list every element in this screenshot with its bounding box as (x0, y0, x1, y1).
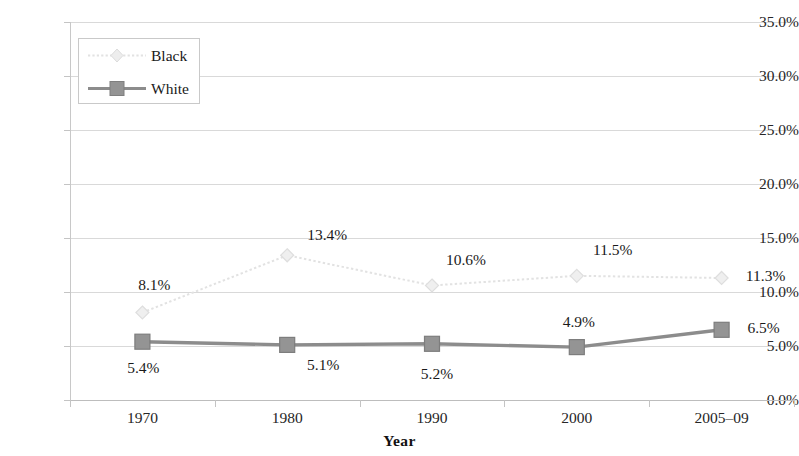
line-chart: 0.0%5.0%10.0%15.0%20.0%25.0%30.0%35.0% 1… (0, 0, 799, 456)
data-point-marker (570, 269, 583, 282)
data-point-marker (425, 336, 440, 351)
data-point-marker (281, 249, 294, 262)
data-point-label: 13.4% (307, 228, 347, 244)
data-point-marker (715, 271, 728, 284)
data-point-marker (280, 337, 295, 352)
data-point-label: 5.2% (421, 366, 453, 382)
data-point-marker (136, 306, 149, 319)
x-axis-title: Year (0, 432, 799, 450)
legend-item-black: Black (79, 39, 199, 72)
data-point-label: 8.1% (138, 277, 170, 293)
data-point-label: 5.1% (307, 357, 339, 373)
legend-label-black: Black (151, 48, 187, 64)
data-point-marker (135, 334, 150, 349)
data-point-label: 4.9% (563, 314, 595, 330)
data-point-label: 5.4% (127, 360, 159, 376)
data-point-label: 11.5% (593, 242, 632, 258)
legend-label-white: White (151, 81, 189, 97)
data-point-label: 10.6% (446, 252, 486, 268)
legend-swatch-black (86, 39, 148, 72)
data-point-marker (569, 340, 584, 355)
chart-legend: Black White (78, 38, 200, 104)
data-point-label: 11.3% (746, 268, 785, 284)
data-point-marker (714, 322, 729, 337)
legend-swatch-white (86, 72, 148, 105)
legend-item-white: White (79, 72, 199, 105)
data-point-label: 6.5% (747, 320, 779, 336)
data-point-marker (426, 279, 439, 292)
